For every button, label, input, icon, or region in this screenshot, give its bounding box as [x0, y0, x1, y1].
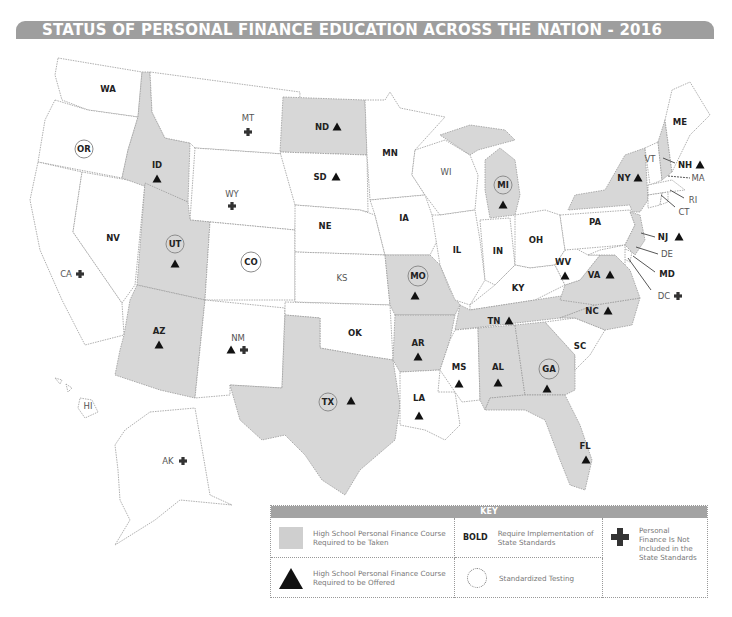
label-GA: GA: [542, 364, 556, 374]
label-AL: AL: [492, 362, 505, 372]
leader-DE: [636, 247, 658, 254]
label-NY: NY: [617, 173, 631, 183]
label-VT: VT: [644, 154, 656, 164]
label-MS: MS: [452, 362, 467, 372]
label-NJ: NJ: [658, 232, 668, 242]
label-HI: HI: [84, 401, 93, 411]
map-key: KEY High School Personal Finance Course …: [270, 505, 708, 598]
label-LA: LA: [413, 393, 425, 403]
state-AK: [115, 408, 232, 545]
label-VA: VA: [588, 270, 601, 280]
label-RI: RI: [689, 195, 697, 205]
label-MI: MI: [497, 180, 509, 190]
key-text: Standardized Testing: [499, 574, 574, 583]
label-ID: ID: [152, 160, 162, 170]
label-AK: AK: [162, 456, 174, 466]
plus-icon: [611, 528, 629, 546]
label-NC: NC: [585, 306, 598, 316]
label-DC: DC: [658, 291, 671, 301]
label-CA: CA: [60, 269, 72, 279]
label-MT: MT: [242, 113, 255, 123]
bold-tag: BOLD: [463, 533, 488, 542]
label-OK: OK: [348, 328, 362, 338]
label-MA: MA: [691, 173, 704, 183]
key-text: Personal Finance Is Not Included in the …: [639, 526, 699, 562]
leader-RI: [670, 190, 684, 198]
key-item-required-offered: High School Personal Finance Course Requ…: [271, 558, 455, 598]
leader-MA: [668, 176, 690, 178]
label-CT: CT: [678, 207, 690, 217]
label-CO: CO: [244, 257, 257, 267]
label-ME: ME: [673, 117, 687, 127]
label-ND: ND: [315, 122, 329, 132]
label-IL: IL: [453, 245, 462, 255]
label-DE: DE: [661, 249, 673, 259]
label-WI: WI: [441, 167, 452, 177]
label-MO: MO: [410, 271, 426, 281]
state-HI-2: [55, 378, 62, 384]
key-text: High School Personal Finance Course Requ…: [313, 529, 454, 547]
state-FL: [485, 395, 592, 490]
triangle-icon-NH: [696, 161, 705, 169]
triangle-icon-NJ: [675, 233, 684, 241]
key-heading: KEY: [271, 506, 707, 518]
label-TN: TN: [488, 316, 501, 326]
label-AR: AR: [411, 338, 425, 348]
key-text: Require Implementation of State Standard…: [498, 529, 602, 547]
label-TX: TX: [322, 397, 335, 407]
label-PA: PA: [589, 217, 601, 227]
key-item-bold: BOLD Require Implementation of State Sta…: [455, 518, 603, 558]
label-NH: NH: [678, 160, 692, 170]
label-SC: SC: [574, 341, 586, 351]
triangle-icon: [279, 568, 303, 589]
label-WV: WV: [555, 257, 571, 267]
label-OR: OR: [77, 144, 91, 154]
label-FL: FL: [579, 441, 591, 451]
label-KS: KS: [337, 273, 348, 283]
key-text: High School Personal Finance Course Requ…: [313, 569, 454, 587]
state-NE: [295, 205, 385, 255]
gray-swatch-icon: [279, 527, 303, 549]
label-KY: KY: [512, 283, 526, 293]
label-IN: IN: [493, 246, 503, 256]
label-AZ: AZ: [153, 326, 166, 336]
key-item-not-included: Personal Finance Is Not Included in the …: [603, 518, 707, 598]
label-WY: WY: [225, 189, 239, 199]
label-MN: MN: [382, 148, 398, 158]
state-ME: [665, 82, 710, 172]
label-IA: IA: [399, 213, 409, 223]
state-HI-3: [66, 384, 72, 392]
label-NE: NE: [319, 221, 332, 231]
state-WY: [190, 148, 298, 230]
label-SD: SD: [313, 172, 326, 182]
label-UT: UT: [169, 239, 182, 249]
state-CT: [648, 193, 662, 208]
key-item-required-taken: High School Personal Finance Course Requ…: [271, 518, 455, 558]
label-OH: OH: [529, 235, 543, 245]
label-WA: WA: [100, 84, 116, 94]
state-AZ: [115, 285, 205, 398]
label-NM: NM: [231, 333, 245, 343]
key-item-testing: Standardized Testing: [455, 558, 603, 598]
state-PA: [560, 210, 635, 250]
plus-icon-DC: [674, 292, 682, 300]
label-NV: NV: [106, 233, 120, 243]
circle-icon: [467, 568, 487, 588]
label-MD: MD: [659, 269, 675, 279]
